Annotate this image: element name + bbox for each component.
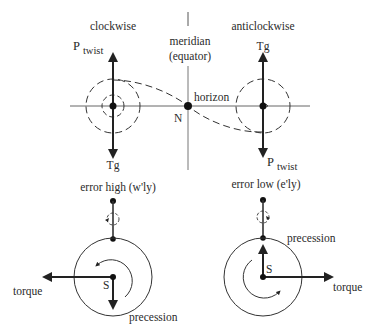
north-point-dot <box>184 102 192 110</box>
left-small-rotation-arrowhead <box>105 218 109 222</box>
left-ptwist-sub: twist <box>83 45 103 56</box>
right-ptwist-label: Ptwist <box>267 156 297 169</box>
left-s-dot <box>110 274 116 280</box>
north-label: N <box>174 113 182 125</box>
right-torque-label: torque <box>333 282 362 294</box>
left-precession-label: precession <box>129 312 178 324</box>
horizon-label: horizon <box>194 92 229 104</box>
error-high-label: error high (w'ly) <box>80 182 156 194</box>
equator-label: (equator) <box>169 51 211 63</box>
right-gyro-center-dot <box>260 103 267 110</box>
left-ptwist-main: P <box>73 39 80 53</box>
left-s-label: S <box>103 280 109 292</box>
meridian-label: meridian <box>170 36 211 48</box>
right-ptwist-sub: twist <box>277 161 297 172</box>
right-s-label: S <box>266 264 272 276</box>
left-junction-dot <box>110 236 116 242</box>
anticlockwise-label: anticlockwise <box>231 21 294 33</box>
left-ptwist-label: Ptwist <box>73 40 103 53</box>
right-precession-label: precession <box>287 233 336 245</box>
right-ptwist-main: P <box>267 155 274 169</box>
error-low-label: error low (e'ly) <box>231 179 300 191</box>
left-torque-label: torque <box>13 286 42 298</box>
left-tg-label: Tg <box>107 160 120 172</box>
left-gyro-center-dot <box>110 103 117 110</box>
right-tg-label: Tg <box>257 41 270 53</box>
clockwise-label: clockwise <box>90 21 136 33</box>
